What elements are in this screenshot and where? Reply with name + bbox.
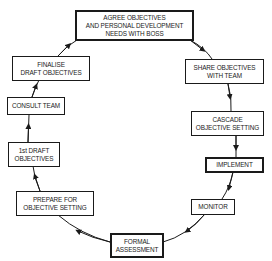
step-label: OBJECTIVE SETTING [23, 204, 86, 212]
step-label: AGREE OBJECTIVES [103, 14, 165, 22]
step-cascade: CASCADE OBJECTIVE SETTING [191, 111, 264, 136]
step-finalise: FINALISE DRAFT OBJECTIVES [12, 56, 90, 81]
step-monitor: MONITOR [191, 199, 235, 215]
step-label: 1st DRAFT [19, 147, 50, 155]
step-implement: IMPLEMENT [205, 157, 264, 173]
step-prepare: PREPARE FOR OBJECTIVE SETTING [16, 191, 94, 216]
step-label: ASSESSMENT [116, 246, 159, 254]
step-label: FORMAL [124, 238, 150, 246]
step-label: SHARE OBJECTIVES [194, 64, 256, 72]
step-label: MONITOR [198, 203, 227, 211]
step-agree-objectives: AGREE OBJECTIVES AND PERSONAL DEVELOPMEN… [75, 10, 194, 41]
step-label: PREPARE FOR [33, 196, 77, 204]
step-first-draft: 1st DRAFT OBJECTIVES [8, 142, 60, 167]
step-formal-assessment: FORMAL ASSESSMENT [110, 233, 164, 258]
step-label: CONSULT TEAM [12, 102, 60, 110]
step-label: WITH TEAM [207, 72, 242, 80]
step-label: CASCADE [212, 116, 242, 124]
step-label: AND PERSONAL DEVELOPMENT [86, 22, 184, 30]
step-label: OBJECTIVES [15, 155, 54, 163]
step-label: IMPLEMENT [216, 161, 252, 169]
step-share-objectives: SHARE OBJECTIVES WITH TEAM [185, 59, 264, 84]
step-label: FINALISE [37, 61, 65, 69]
step-label: OBJECTIVE SETTING [196, 124, 259, 132]
step-label: DRAFT OBJECTIVES [20, 69, 81, 77]
step-label: NEEDS WITH BOSS [105, 30, 163, 38]
step-consult-team: CONSULT TEAM [7, 97, 65, 115]
